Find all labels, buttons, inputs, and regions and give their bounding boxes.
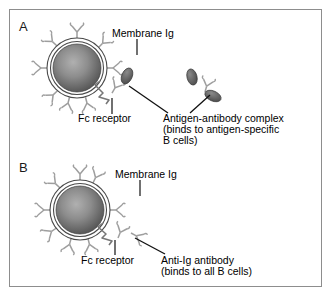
panel-a-complex-free	[185, 68, 223, 104]
panel-b-fc-receptor-label: Fc receptor	[81, 255, 134, 267]
panel-a-antigen-free-1	[185, 68, 199, 86]
panel-b-membrane-ig-label: Membrane Ig	[115, 169, 177, 181]
panel-a-complex-label-line3: B cells)	[163, 135, 197, 147]
panel-a-complex-leader-right	[190, 95, 210, 113]
panel-a-membrane-ig-label: Membrane Ig	[112, 28, 174, 40]
panel-b-anti-ig-leader	[135, 238, 165, 254]
panel-b-fc-receptor	[98, 227, 112, 245]
panel-a-antigen-bound	[119, 66, 135, 86]
panel-b-cell-nucleus	[56, 186, 104, 234]
panel-a-complex-bound	[106, 66, 135, 96]
panel-a-letter: A	[19, 19, 28, 34]
panel-b-anti-ig-label-line2: (binds to all B cells)	[161, 266, 252, 278]
figure-container: A B Membrane Ig Fc receptor Antigen-anti…	[0, 0, 334, 299]
panel-a-fc-receptor	[95, 85, 109, 104]
panel-a-fc-receptor-label: Fc receptor	[78, 113, 131, 125]
panel-a-complex-leader-left	[129, 86, 168, 113]
panel-b-letter: B	[19, 160, 28, 175]
panel-a-cell-nucleus	[53, 44, 101, 92]
